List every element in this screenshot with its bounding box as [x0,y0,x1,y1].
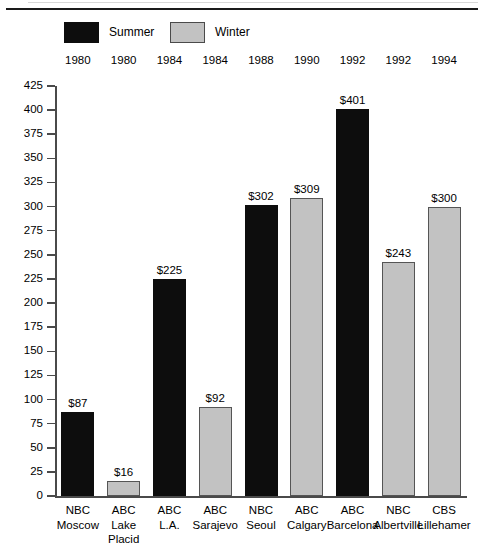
y-axis-tick-label: 250 [0,249,43,261]
legend-label-winter: Winter [215,26,250,38]
legend-swatch-summer-icon [64,22,99,43]
y-axis-tick-mark [47,423,55,425]
bar-value-label: $87 [55,398,101,410]
year-label: 1990 [284,52,330,68]
bar-value-label: $309 [284,184,330,196]
y-axis-tick-label: 300 [0,201,43,213]
x-axis-category-labels: NBCMoscowABCLakePlacidABCL.A.ABCSarajevo… [55,503,467,552]
year-label: 1988 [238,52,284,68]
y-axis-tick-label: 325 [0,176,43,188]
y-axis-tick-mark [47,85,55,87]
legend-entry-winter: Winter [170,18,250,46]
y-axis-tick-mark [47,302,55,304]
legend-swatch-winter-icon [170,22,205,43]
bar-value-label: $300 [421,193,467,205]
bar-value-label: $225 [147,265,193,277]
bar-summer [61,412,94,496]
bar-chart-plot-area: 4254003753503253002752502252001751501251… [0,78,482,503]
y-axis-tick-mark [47,133,55,135]
bar-value-label: $243 [375,248,421,260]
y-axis-line [55,86,57,497]
y-axis-tick-mark [47,206,55,208]
bar-summer [153,279,186,496]
year-label: 1980 [101,52,147,68]
y-axis-tick-mark [47,375,55,377]
y-axis-tick-label: 125 [0,369,43,381]
y-axis-tick-mark [47,182,55,184]
year-label: 1984 [192,52,238,68]
year-label: 1980 [55,52,101,68]
y-axis-tick-mark [47,278,55,280]
y-axis-tick-label: 200 [0,297,43,309]
bar-summer [336,109,369,496]
y-axis-tick-label: 25 [0,466,43,478]
y-axis-tick-label: 175 [0,321,43,333]
y-axis-tick-label: 425 [0,80,43,92]
x-axis-label-line: CBS [417,503,471,518]
y-axis-tick-mark [47,326,55,328]
y-axis-tick-mark [47,158,55,160]
legend-label-summer: Summer [109,26,154,38]
page-top-artifact-rule [28,2,478,3]
year-label: 1994 [421,52,467,68]
bar-winter [199,407,232,496]
bar-winter [428,207,461,496]
year-header-row: 198019801984198419881990199219921994 [55,52,467,68]
y-axis-tick-label: 100 [0,394,43,406]
chart-legend: Summer Winter [0,18,482,46]
year-label: 1984 [147,52,193,68]
bar-value-label: $16 [101,467,147,479]
y-axis-tick-mark [47,109,55,111]
year-label: 1992 [330,52,376,68]
y-axis-tick-label: 400 [0,104,43,116]
y-axis-tick-mark [47,471,55,473]
y-axis-tick-label: 375 [0,128,43,140]
year-label: 1992 [375,52,421,68]
x-axis-category-label: CBSLillehamer [417,503,471,532]
y-axis-tick-mark [47,447,55,449]
x-axis-label-line: Placid [97,532,151,547]
y-axis-tick-mark [47,399,55,401]
y-axis-tick-mark [47,230,55,232]
bar-winter [290,198,323,496]
bar-summer [245,205,278,496]
header-divider-rule [6,8,478,10]
y-axis-tick-label: 350 [0,152,43,164]
y-axis-tick-label: 275 [0,225,43,237]
bar-winter [382,262,415,496]
bar-winter [107,481,140,496]
y-axis-tick-mark [47,351,55,353]
y-axis-tick-mark [47,495,55,497]
y-axis-tick-label: 75 [0,418,43,430]
bar-value-label: $302 [238,191,284,203]
x-axis-label-line: Lillehamer [417,518,471,533]
y-axis-tick-label: 0 [0,490,43,502]
y-axis-tick-label: 225 [0,273,43,285]
legend-entry-summer: Summer [64,18,154,46]
bar-value-label: $92 [192,393,238,405]
bar-value-label: $401 [330,95,376,107]
y-axis-tick-mark [47,254,55,256]
x-axis-line [55,496,467,498]
y-axis-tick-label: 50 [0,442,43,454]
y-axis-tick-label: 150 [0,345,43,357]
